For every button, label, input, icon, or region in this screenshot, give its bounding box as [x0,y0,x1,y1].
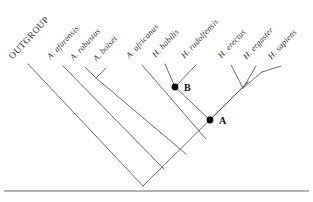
node-b-dot [172,84,179,91]
cladogram-figure: OUTGROUPA. afarensisA. robustusA. boisei… [0,0,313,202]
branch-a-africanus [142,65,206,139]
node-a-dot [207,117,214,124]
branch-a-boisei [96,68,106,78]
branch-erectus-clade [243,72,262,88]
branch-h-sapiens [262,66,281,72]
branch-h-ergaster [243,66,256,88]
branch-h-erectus [231,65,243,88]
node-label-node-a: A [219,115,226,126]
branch-robustus-clade [96,78,186,154]
node-label-node-b: B [184,82,191,93]
branch-b-down [175,87,210,120]
branch-a-robustus [85,67,96,78]
branch-outgroup [28,64,143,186]
branch-layer [28,64,281,186]
branch-a-up-right [210,82,248,120]
branch-h-habilis [165,64,175,87]
